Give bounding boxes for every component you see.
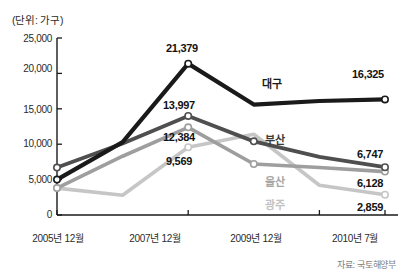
y-axis-tick-5000: 5,000 bbox=[0, 174, 52, 185]
data-point-marker bbox=[382, 96, 388, 102]
x-axis-tick-3: 2010년 7월 bbox=[313, 230, 397, 245]
data-point-marker bbox=[185, 124, 191, 130]
data-label-busan-peak: 13,997 bbox=[163, 99, 195, 111]
x-axis-ticks bbox=[57, 210, 385, 215]
series-label-ulsan: 울산 bbox=[265, 173, 284, 189]
y-axis-tick-15000: 15,000 bbox=[0, 104, 52, 115]
data-label-daegu-peak: 21,379 bbox=[166, 42, 198, 54]
y-axis-tick-25000: 25,000 bbox=[0, 33, 52, 44]
data-point-marker bbox=[54, 185, 60, 191]
data-point-marker bbox=[54, 164, 60, 170]
data-point-marker bbox=[251, 161, 257, 167]
x-axis-tick-0: 2005년 12월 bbox=[16, 230, 100, 245]
series-label-gwangju: 광주 bbox=[265, 196, 284, 212]
series-lines bbox=[57, 64, 385, 196]
data-point-marker bbox=[185, 60, 191, 66]
series-label-busan: 부산 bbox=[265, 131, 284, 147]
data-label-gwangju-peak: 9,569 bbox=[166, 155, 192, 167]
data-label-ulsan-end: 6,128 bbox=[357, 177, 383, 189]
data-point-marker bbox=[382, 164, 388, 170]
line-chart: (단위: 가구) 25,000 20,000 15,000 10,000 5,0… bbox=[0, 0, 406, 276]
x-axis-tick-2: 2009년 12월 bbox=[214, 230, 298, 245]
y-axis-tick-20000: 20,000 bbox=[0, 63, 52, 74]
x-axis-tick-1: 2007년 12월 bbox=[113, 230, 197, 245]
unit-label: (단위: 가구) bbox=[12, 12, 63, 27]
data-point-marker bbox=[185, 144, 191, 150]
data-point-marker bbox=[382, 192, 388, 198]
data-label-daegu-end: 16,325 bbox=[352, 68, 384, 80]
data-label-busan-end: 6,747 bbox=[357, 148, 383, 160]
series-label-daegu: 대구 bbox=[262, 75, 281, 91]
data-point-marker bbox=[251, 138, 257, 144]
data-label-gwangju-end: 2,859 bbox=[357, 201, 383, 213]
y-axis-tick-10000: 10,000 bbox=[0, 138, 52, 149]
data-point-marker bbox=[54, 176, 60, 182]
data-point-marker bbox=[185, 113, 191, 119]
source-label: 자료: 국토해양부 bbox=[337, 258, 396, 271]
y-axis-tick-0: 0 bbox=[0, 209, 52, 220]
data-label-ulsan-peak: 12,384 bbox=[163, 131, 195, 143]
